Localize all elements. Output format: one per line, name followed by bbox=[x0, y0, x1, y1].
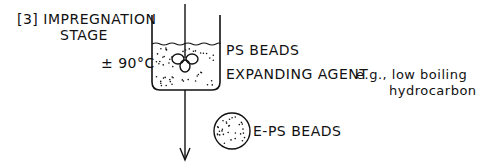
bead-dot bbox=[195, 50, 197, 52]
eps-bead-dots bbox=[217, 116, 246, 144]
eps-dot bbox=[223, 134, 225, 136]
bead-dot bbox=[200, 72, 202, 74]
beaker bbox=[152, 15, 220, 90]
bead-dot bbox=[193, 51, 195, 53]
bead-dot bbox=[156, 61, 158, 63]
eps-dot bbox=[241, 122, 243, 124]
expanding-agent-example-line2: hydrocarbon bbox=[389, 84, 477, 97]
bead-dot bbox=[182, 79, 184, 81]
bead-dot bbox=[213, 54, 215, 56]
bead-dot bbox=[189, 48, 191, 50]
bead-dot bbox=[171, 56, 173, 58]
temperature-label: ± 90°C bbox=[101, 56, 155, 70]
bead-dot bbox=[159, 61, 161, 63]
bead-dot bbox=[213, 60, 215, 62]
eps-dot bbox=[226, 123, 228, 125]
bead-dot bbox=[165, 49, 167, 51]
bead-dot bbox=[209, 57, 211, 59]
eps-dot bbox=[229, 125, 231, 127]
bead-dot bbox=[212, 84, 214, 86]
eps-dot bbox=[242, 123, 244, 125]
bead-dot bbox=[170, 81, 172, 83]
eps-dot bbox=[235, 132, 237, 134]
bead-dot bbox=[168, 62, 170, 64]
bead-dot bbox=[195, 80, 197, 82]
eps-dot bbox=[231, 117, 233, 119]
bead-dot bbox=[160, 82, 162, 84]
bead-dot bbox=[161, 85, 163, 87]
eps-dot bbox=[227, 132, 229, 134]
eps-dot bbox=[235, 116, 237, 118]
stage-label-line2: STAGE bbox=[60, 28, 108, 42]
bead-dot bbox=[165, 85, 167, 87]
eps-dot bbox=[244, 137, 246, 139]
bead-dot bbox=[157, 53, 159, 55]
eps-dot bbox=[219, 134, 221, 136]
eps-dot bbox=[242, 128, 244, 130]
bead-dot bbox=[171, 76, 173, 78]
bead-dot bbox=[163, 56, 165, 58]
bead-dot bbox=[187, 79, 189, 81]
bead-dot bbox=[169, 79, 171, 81]
bead-dot bbox=[198, 74, 200, 76]
eps-dot bbox=[239, 124, 241, 126]
bead-dot bbox=[158, 63, 160, 65]
bead-dot bbox=[156, 76, 158, 78]
eps-dot bbox=[217, 133, 219, 135]
bead-dot bbox=[207, 84, 209, 86]
eps-beads-label: E-PS BEADS bbox=[253, 124, 341, 138]
bead-dot bbox=[182, 51, 184, 53]
eps-dot bbox=[229, 119, 231, 121]
bead-dot bbox=[164, 77, 166, 79]
eps-dot bbox=[221, 130, 223, 132]
eps-dot bbox=[240, 133, 242, 135]
eps-dot bbox=[222, 120, 224, 122]
bead-dot bbox=[160, 81, 162, 83]
eps-dot bbox=[222, 129, 224, 131]
eps-dot bbox=[243, 132, 245, 134]
bead-dot bbox=[211, 80, 213, 82]
bead-dot bbox=[203, 52, 205, 54]
eps-dot bbox=[224, 143, 226, 145]
bead-dot bbox=[183, 80, 185, 82]
liquid-surface bbox=[152, 43, 220, 45]
bead-dot bbox=[185, 49, 187, 51]
bead-dot bbox=[206, 53, 208, 55]
bead-dot bbox=[165, 47, 167, 49]
expanding-agent-label: EXPANDING AGENT bbox=[226, 67, 368, 81]
bead-dot bbox=[196, 75, 198, 77]
bead-dot bbox=[200, 52, 202, 54]
bead-dot bbox=[163, 77, 165, 79]
bead-dot bbox=[162, 64, 164, 66]
eps-dot bbox=[217, 126, 219, 128]
expanding-agent-example-line1: e.g., low boiling bbox=[356, 68, 467, 81]
bead-dot bbox=[171, 84, 173, 86]
eps-dot bbox=[234, 138, 236, 140]
eps-dot bbox=[242, 140, 244, 142]
bead-dot bbox=[169, 58, 171, 60]
ps-beads-label: PS BEADS bbox=[226, 43, 299, 57]
bead-dot bbox=[172, 66, 174, 68]
bead-dot bbox=[160, 48, 162, 50]
stage-label-line1: [3] IMPREGNATION bbox=[17, 12, 157, 26]
eps-dot bbox=[230, 139, 232, 141]
eps-dot bbox=[219, 130, 221, 132]
